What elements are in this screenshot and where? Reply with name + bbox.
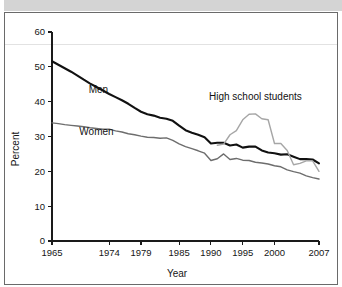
x-tick-label: 1995 bbox=[232, 247, 253, 258]
x-tick-label: 1974 bbox=[99, 247, 120, 258]
line-chart: 0102030405060 19651974197919851990199520… bbox=[5, 13, 337, 284]
x-axis-title: Year bbox=[167, 268, 188, 279]
x-tick-label: 2007 bbox=[308, 247, 329, 258]
series-line bbox=[52, 61, 319, 163]
x-tick-labels: 19651974197919851990199520002007 bbox=[41, 247, 329, 258]
figure-frame: 0102030405060 19651974197919851990199520… bbox=[4, 12, 338, 285]
y-tick-label: 30 bbox=[34, 131, 45, 142]
y-tick-label: 20 bbox=[34, 166, 45, 177]
x-tick-label: 1985 bbox=[169, 247, 190, 258]
y-tick-label: 40 bbox=[34, 96, 45, 107]
series-line bbox=[217, 114, 319, 171]
x-tick-label: 2000 bbox=[264, 247, 285, 258]
plot-ticks bbox=[48, 32, 319, 245]
series-inline-labels: MenWomenHigh school students bbox=[79, 84, 301, 137]
x-tick-label: 1990 bbox=[200, 247, 221, 258]
x-tick-label: 1965 bbox=[41, 247, 62, 258]
y-tick-label: 60 bbox=[34, 26, 45, 37]
x-tick-label: 1979 bbox=[130, 247, 151, 258]
series-label-women: Women bbox=[79, 126, 113, 137]
series-label-men: Men bbox=[89, 84, 108, 95]
y-tick-label: 0 bbox=[40, 235, 45, 246]
y-axis-title: Percent bbox=[10, 132, 21, 167]
y-tick-label: 50 bbox=[34, 61, 45, 72]
series-label-high-school-students: High school students bbox=[209, 91, 302, 102]
y-tick-labels: 0102030405060 bbox=[34, 26, 45, 246]
series-lines bbox=[52, 61, 319, 179]
figure-root: 0102030405060 19651974197919851990199520… bbox=[0, 0, 342, 287]
top-gray-band bbox=[4, 0, 342, 11]
y-tick-label: 10 bbox=[34, 201, 45, 212]
